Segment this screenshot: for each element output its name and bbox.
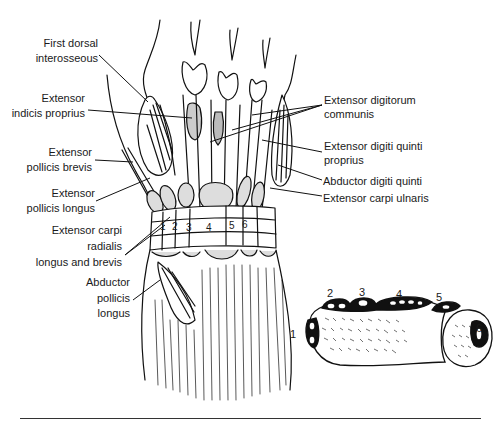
cross-section-number-4: 4 — [396, 288, 402, 300]
retinaculum-number-4: 4 — [206, 222, 212, 234]
retinaculum-number-6: 6 — [242, 219, 248, 231]
cross-section-number-1: 1 — [290, 328, 296, 340]
retinaculum-number-5: 5 — [229, 220, 235, 232]
cross-section-number-6: 6 — [476, 322, 482, 334]
label-abductor-digiti-quinti: Abductor digiti quinti — [323, 174, 422, 189]
wrist-cross-section — [306, 297, 492, 367]
label-extensor-indicis-proprius: Extensor indicis proprius — [12, 91, 85, 121]
cross-section-number-2: 2 — [327, 287, 333, 299]
label-extensor-carpi-radialis: Extensor carpi radialis longus and brevi… — [36, 222, 122, 270]
anatomy-figure: First dorsal interosseous Extensor indic… — [0, 0, 498, 427]
retinaculum-number-2: 2 — [172, 221, 178, 233]
cross-section-number-5: 5 — [436, 291, 442, 303]
label-first-dorsal-interosseous: First dorsal interosseous — [36, 36, 98, 66]
label-abductor-pollicis-longus: Abductor pollicis longus — [86, 275, 130, 322]
horizontal-divider — [20, 418, 481, 419]
retinaculum-number-1: 1 — [160, 221, 166, 233]
right-leader-lines — [210, 105, 322, 196]
label-extensor-pollicis-longus: Extensor pollicis longus — [27, 186, 95, 216]
label-extensor-carpi-ulnaris: Extensor carpi ulnaris — [323, 191, 429, 206]
retinaculum-number-3: 3 — [186, 222, 192, 234]
label-extensor-digiti-quinti-proprius: Extensor digiti quinti proprius — [324, 139, 422, 167]
extensor-indicis-muscle — [187, 103, 202, 140]
cross-section-number-3: 3 — [359, 286, 365, 298]
label-extensor-pollicis-brevis: Extensor pollicis brevis — [27, 145, 92, 175]
label-extensor-digitorum-communis: Extensor digitorum communis — [324, 93, 416, 121]
radius-cross-section — [310, 302, 445, 366]
